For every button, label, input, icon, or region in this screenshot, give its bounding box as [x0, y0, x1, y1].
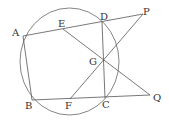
label-P: P	[143, 6, 150, 17]
segment-EQ	[63, 29, 150, 95]
label-G: G	[89, 56, 97, 67]
label-Q: Q	[153, 92, 161, 103]
geometry-diagram: A E D P G B F C Q	[0, 0, 169, 120]
label-A: A	[11, 27, 20, 38]
label-D: D	[100, 11, 108, 22]
segment-FP	[70, 14, 143, 99]
segments	[23, 14, 150, 100]
segment-BQ	[32, 95, 150, 100]
label-C: C	[102, 99, 110, 110]
label-E: E	[58, 18, 65, 29]
label-F: F	[65, 100, 72, 111]
label-B: B	[25, 100, 32, 111]
